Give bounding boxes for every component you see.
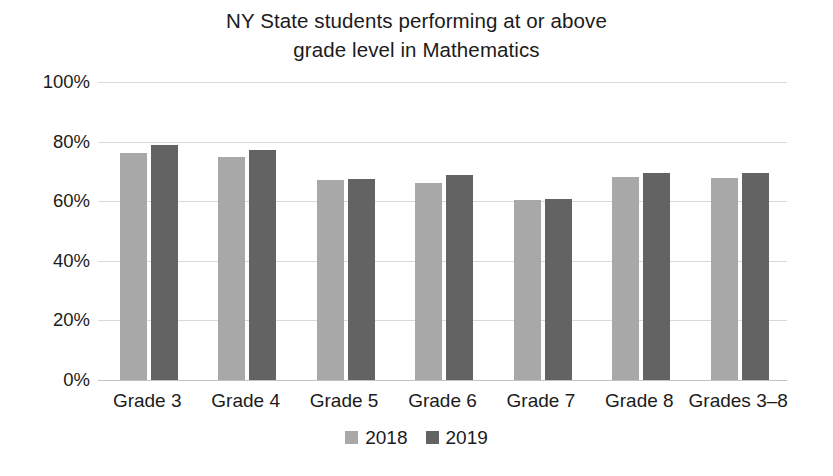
bar-2018 [612,177,639,380]
y-axis-tick-label: 20% [20,311,90,330]
y-axis-tick-label: 40% [20,252,90,271]
bar-chart: NY State students performing at or above… [0,0,833,476]
x-axis-tick-label: Grade 5 [295,388,393,414]
bar-2019 [643,173,670,380]
bar-2018 [711,178,738,380]
y-axis-tick-label: 80% [20,133,90,152]
bar-group [393,82,491,380]
bar-2018 [514,200,541,380]
legend-label: 2019 [446,428,488,447]
chart-legend: 20182019 [0,428,833,447]
x-axis-tick-label: Grade 3 [98,388,196,414]
bar-2018 [317,180,344,380]
legend-item[interactable]: 2018 [345,428,407,447]
bar-2019 [446,175,473,380]
x-axis-tick-label: Grade 4 [196,388,294,414]
bar-group [98,82,196,380]
y-axis-tick-label: 0% [20,371,90,390]
x-axis-tick-label: Grade 8 [590,388,688,414]
bar-2019 [742,173,769,380]
x-axis-labels: Grade 3Grade 4Grade 5Grade 6Grade 7Grade… [98,388,787,418]
legend-item[interactable]: 2019 [426,428,488,447]
y-axis-tick-label: 60% [20,192,90,211]
chart-title: NY State students performing at or above… [0,6,833,64]
bar-2019 [545,199,572,380]
bar-2019 [151,145,178,380]
x-axis-tick-label: Grade 7 [492,388,590,414]
bar-2019 [249,150,276,380]
y-axis-labels: 0%20%40%60%80%100% [8,82,90,380]
legend-swatch-icon [426,431,439,444]
x-axis-tick-label: Grades 3–8 [689,388,787,414]
gridline [98,380,787,381]
bar-group [196,82,294,380]
bar-2019 [348,179,375,380]
bar-group [295,82,393,380]
bar-group [689,82,787,380]
bar-group [590,82,688,380]
y-axis-tick-label: 100% [20,73,90,92]
plot-area [98,82,787,380]
chart-title-line-2: grade level in Mathematics [0,35,833,64]
bar-2018 [120,153,147,380]
x-axis-tick-label: Grade 6 [393,388,491,414]
chart-title-line-1: NY State students performing at or above [226,9,607,32]
bar-group [492,82,590,380]
legend-swatch-icon [345,431,358,444]
bar-2018 [218,157,245,380]
legend-label: 2018 [365,428,407,447]
bar-2018 [415,183,442,380]
